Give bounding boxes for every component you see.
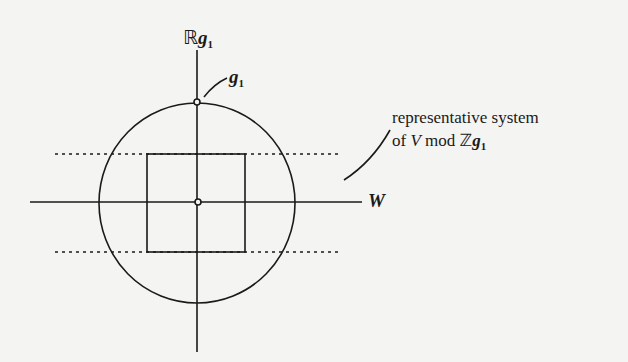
vertical-axis-label: ℝg1 [183,26,213,50]
g1-label: g1 [229,66,244,89]
diagram-canvas [0,0,628,362]
real-numbers-symbol: ℝ [183,26,198,48]
g1-point [194,99,200,105]
annotation-line-2: of V mod ℤg1 [392,130,486,152]
vertical-axis-var: g [198,27,208,48]
horizontal-axis-label: W [368,190,385,212]
g1-leader-line [204,78,227,97]
annotation-V: V [410,131,420,150]
annotation-mod: mod [421,131,460,150]
g1-var: g [229,66,239,87]
annotation-line-1: representative system [392,108,539,128]
annotation-leader-line [344,130,390,180]
annotation-sub: 1 [481,140,487,152]
integers-symbol: ℤ [460,130,473,150]
vertical-axis-sub: 1 [208,38,214,50]
annotation-g: g [472,131,481,150]
origin-point [195,199,201,205]
annotation-of: of [392,131,410,150]
g1-sub: 1 [239,77,245,89]
